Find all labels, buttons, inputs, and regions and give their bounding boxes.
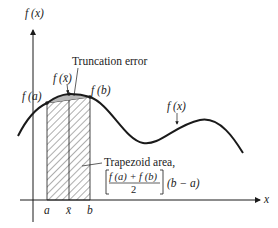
y-axis-label: f (x) [25,7,44,20]
trapezoid-region [47,97,90,200]
tick-a: a [44,204,50,216]
fb-label: f (b) [91,84,111,97]
fxbar-label: f (x̄) [53,72,72,85]
tick-xbar: x̄ [65,204,72,216]
curve-label: f (x) [167,100,186,113]
truncation-error-label: Truncation error [72,55,147,67]
formula-factor: (b − a) [167,177,200,190]
trapezoid-area-label: Trapezoid area, [104,156,175,169]
tick-b: b [87,204,93,216]
formula-numerator: f (a) + f (b) [109,171,157,183]
truncation-error-leader [74,68,78,96]
fxbar-arrow [67,84,68,93]
point-fa [45,101,49,105]
x-axis-label: x [263,193,270,205]
formula-denominator: 2 [131,184,136,195]
formula-right-bracket [160,170,163,194]
fa-label: f (a) [22,90,42,103]
trapezoidal-rule-diagram: f (x) x Truncation error f (x̄) f (a) f … [0,0,278,228]
